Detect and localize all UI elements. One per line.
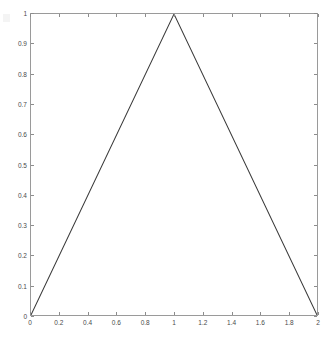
x-tick-mark-bottom [30,312,31,315]
x-tick-label: 2 [316,319,320,326]
x-tick-mark-bottom [145,312,146,315]
y-tick-mark-left [31,195,34,196]
x-tick-mark-top [174,14,175,17]
y-tick-mark-left [31,13,34,14]
y-tick-mark-left [31,74,34,75]
x-tick-mark-bottom [318,312,319,315]
y-tick-mark-left [31,104,34,105]
x-tick-label: 0.4 [83,319,92,326]
x-tick-mark-top [318,14,319,17]
x-tick-mark-bottom [260,312,261,315]
x-tick-label: 1.2 [198,319,207,326]
y-tick-mark-left [31,316,34,317]
x-tick-label: 0.2 [54,319,63,326]
x-tick-label: 0.8 [141,319,150,326]
y-tick-label: 0.2 [8,252,27,259]
plot-axes-box [30,13,318,316]
y-tick-mark-left [31,255,34,256]
y-tick-label: 0.9 [8,40,27,47]
x-tick-mark-bottom [174,312,175,315]
y-tick-label: 0 [8,313,27,320]
x-tick-mark-top [145,14,146,17]
x-tick-mark-top [59,14,60,17]
x-tick-mark-top [203,14,204,17]
y-tick-mark-right [314,225,317,226]
y-tick-label: 0.5 [8,161,27,168]
x-tick-mark-top [232,14,233,17]
figure-canvas: 00.20.40.60.811.21.41.61.82 00.10.20.30.… [0,0,328,340]
x-tick-mark-bottom [232,312,233,315]
series-polyline [31,14,317,315]
y-tick-label: 1 [8,10,27,17]
y-tick-mark-right [314,316,317,317]
y-tick-mark-right [314,43,317,44]
y-tick-mark-right [314,74,317,75]
x-tick-mark-bottom [59,312,60,315]
x-tick-mark-bottom [289,312,290,315]
y-tick-mark-left [31,165,34,166]
x-tick-label: 1 [172,319,176,326]
y-tick-label: 0.8 [8,70,27,77]
x-tick-mark-top [260,14,261,17]
y-tick-mark-right [314,165,317,166]
y-tick-mark-right [314,134,317,135]
y-tick-label: 0.3 [8,222,27,229]
y-tick-mark-left [31,43,34,44]
y-tick-mark-right [314,286,317,287]
y-tick-mark-right [314,104,317,105]
y-tick-label: 0.4 [8,191,27,198]
y-tick-label: 0.1 [8,282,27,289]
y-tick-label: 0.7 [8,100,27,107]
x-tick-mark-top [30,14,31,17]
plot-line-series [31,14,317,315]
x-tick-mark-top [116,14,117,17]
x-tick-label: 1.8 [285,319,294,326]
y-tick-mark-right [314,255,317,256]
y-tick-mark-left [31,225,34,226]
x-tick-label: 1.6 [256,319,265,326]
x-tick-label: 0 [28,319,32,326]
x-tick-label: 1.4 [227,319,236,326]
y-tick-mark-right [314,13,317,14]
x-tick-mark-bottom [203,312,204,315]
y-tick-mark-left [31,286,34,287]
y-tick-mark-left [31,134,34,135]
x-tick-mark-top [88,14,89,17]
x-tick-mark-bottom [88,312,89,315]
x-tick-mark-top [289,14,290,17]
x-tick-mark-bottom [116,312,117,315]
x-tick-label: 0.6 [112,319,121,326]
y-tick-label: 0.6 [8,131,27,138]
y-tick-mark-right [314,195,317,196]
